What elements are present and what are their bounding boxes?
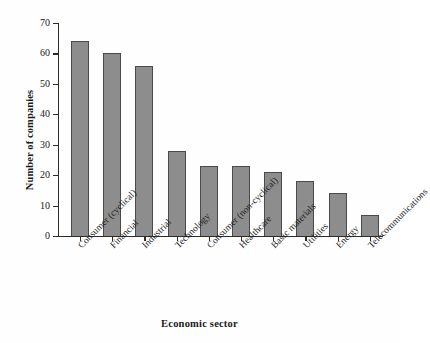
y-axis-tick: 60 [53, 53, 58, 54]
y-axis-tick-label: 50 [40, 77, 50, 91]
y-axis-tick-label: 0 [45, 229, 50, 243]
y-axis-title: Number of companies [24, 60, 40, 220]
plot-area: 010203040506070 [58, 23, 383, 236]
bar [329, 193, 347, 236]
y-axis-tick: 20 [53, 175, 58, 176]
y-axis-tick-label: 70 [40, 16, 50, 30]
y-axis-tick-label: 60 [40, 46, 50, 60]
y-axis-tick: 10 [53, 206, 58, 207]
y-axis-tick: 0 [53, 236, 58, 237]
y-axis-tick: 40 [53, 114, 58, 115]
bar [135, 66, 153, 236]
x-axis-title: Economic sector [0, 318, 399, 329]
y-axis-tick-label: 40 [40, 107, 50, 121]
bar [71, 41, 89, 236]
y-axis-tick-label: 30 [40, 138, 50, 152]
y-axis-tick: 30 [53, 145, 58, 146]
y-axis-tick: 50 [53, 84, 58, 85]
y-axis-tick-label: 20 [40, 168, 50, 182]
y-axis-tick: 70 [53, 23, 58, 24]
y-axis-tick-label: 10 [40, 199, 50, 213]
y-axis-line [58, 23, 59, 236]
